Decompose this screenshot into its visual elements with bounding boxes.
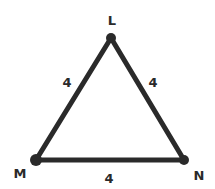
triangle-lmn (36, 38, 184, 160)
side-label-mn: 4 (104, 171, 113, 186)
side-label-lm: 4 (62, 75, 71, 90)
vertex-label-l: L (108, 13, 116, 28)
vertex-n-dot (179, 155, 189, 165)
vertex-l-dot (106, 33, 116, 43)
vertex-m-dot (30, 154, 42, 166)
vertex-label-n: N (194, 168, 205, 183)
side-label-ln: 4 (148, 75, 157, 90)
triangle-diagram: L M N 4 4 4 (0, 0, 215, 189)
vertex-label-m: M (14, 166, 27, 181)
